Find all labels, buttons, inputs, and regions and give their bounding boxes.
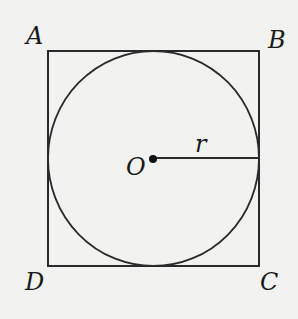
radius-label-r: r [195,130,208,158]
vertex-label-c: C [260,268,278,296]
vertex-label-b: B [267,26,286,54]
vertex-label-a: A [24,22,43,50]
diagram-canvas: A B C D O r [0,0,298,319]
vertex-label-d: D [24,268,44,296]
center-point [149,155,157,163]
center-label-o: O [126,153,146,181]
